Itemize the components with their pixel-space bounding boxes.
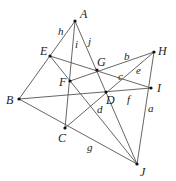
line-label-g: g [87, 141, 93, 153]
point-label-I: I [156, 81, 162, 95]
line-label-f: f [127, 93, 132, 105]
point-label-J: J [140, 165, 146, 179]
line-label-e: e [136, 64, 141, 76]
line-g [19, 99, 137, 164]
point-E [48, 54, 51, 57]
point-A [73, 19, 76, 22]
line-label-b: b [124, 50, 130, 62]
point-J [135, 162, 138, 165]
point-label-C: C [58, 131, 67, 145]
point-H [152, 50, 155, 53]
line-label-h: h [58, 25, 64, 37]
line-label-i: i [75, 38, 78, 50]
point-I [149, 86, 152, 89]
point-F [68, 79, 71, 82]
geometry-diagram: hijcbefdgaABCDEFGHIJ [0, 0, 176, 181]
point-label-A: A [79, 7, 88, 21]
point-label-B: B [6, 93, 14, 107]
point-label-D: D [105, 93, 115, 107]
point-C [63, 126, 66, 129]
line-label-d: d [97, 103, 103, 115]
point-label-E: E [39, 44, 48, 58]
line-label-a: a [148, 102, 154, 114]
point-B [17, 97, 20, 100]
point-label-H: H [157, 44, 168, 58]
line-i [65, 21, 75, 128]
point-label-G: G [97, 55, 106, 69]
diagram-canvas: hijcbefdgaABCDEFGHIJ [0, 0, 176, 181]
line-label-c: c [118, 70, 123, 82]
line-h [19, 21, 75, 99]
line-label-j: j [86, 35, 91, 47]
point-label-F: F [58, 75, 67, 89]
line-d [50, 56, 137, 164]
line-f [19, 88, 151, 99]
